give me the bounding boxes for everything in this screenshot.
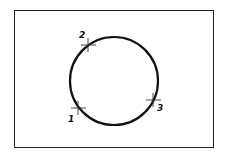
diagram-canvas: 1 2 3 (0, 0, 225, 162)
point-2-label: 2 (79, 30, 85, 40)
point-3-label: 3 (157, 103, 163, 113)
circle (70, 37, 158, 125)
point-1-label: 1 (68, 114, 74, 124)
